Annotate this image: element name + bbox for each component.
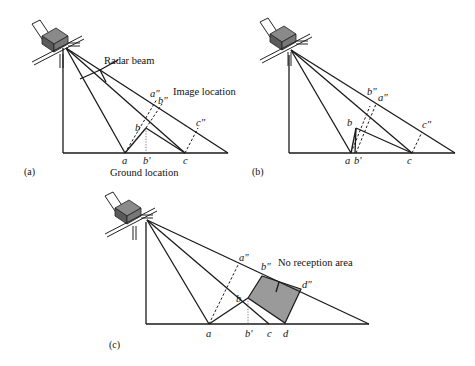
- point-d: d: [283, 328, 289, 339]
- radar-beam-label: Radar beam: [104, 55, 154, 66]
- point-b: b: [135, 122, 140, 133]
- point-a: a: [345, 155, 350, 166]
- point-c: c: [267, 328, 272, 339]
- point-d-double-prime: d": [302, 279, 312, 290]
- point-c: c: [407, 155, 412, 166]
- point-c: c: [183, 155, 188, 166]
- point-b-prime: b': [354, 155, 362, 166]
- point-b-double-prime: b": [158, 95, 168, 106]
- ground-location-label: Ground location: [110, 167, 179, 178]
- point-b-double-prime: b": [261, 261, 271, 272]
- no-reception-label: No reception area: [278, 257, 353, 268]
- panel-b-label: (b): [252, 166, 264, 178]
- no-reception-area: [248, 276, 301, 323]
- panel-a: Radar beam Image location Ground locatio…: [24, 20, 236, 178]
- point-b: b: [236, 293, 241, 304]
- point-a: a: [122, 155, 127, 166]
- radar-geometry-figure: Radar beam Image location Ground locatio…: [0, 0, 475, 366]
- satellite-icon: [105, 192, 157, 240]
- panel-c: No reception area a" b" d" b a b' c d (c…: [105, 192, 369, 351]
- image-location-label: Image location: [173, 86, 236, 97]
- point-b-prime: b': [143, 155, 151, 166]
- point-b: b: [347, 117, 352, 128]
- panel-c-label: (c): [109, 339, 120, 351]
- satellite-icon: [32, 20, 84, 68]
- point-c-double-prime: c": [422, 119, 432, 130]
- panel-b: b" a" b c" a b' c (b): [252, 18, 455, 178]
- point-b-prime: b': [245, 328, 253, 339]
- point-a-double-prime: a": [239, 252, 249, 263]
- panel-a-label: (a): [24, 166, 35, 178]
- point-c-double-prime: c": [196, 117, 206, 128]
- point-a-double-prime: a": [378, 92, 388, 103]
- point-a: a: [206, 328, 211, 339]
- point-b-double-prime: b": [367, 86, 377, 97]
